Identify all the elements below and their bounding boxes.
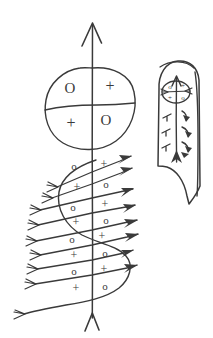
ladder-symbol-r3-right: o: [103, 214, 109, 226]
ladder-symbol-r7-right: o: [102, 280, 108, 292]
quadrant-symbol-bottom-left: +: [66, 114, 75, 131]
arrow-lines-group: [25, 155, 139, 289]
ladder-symbol-r4-right: +: [99, 229, 106, 243]
banner-inner-fold-line: [195, 72, 198, 196]
arrow-line-2: [42, 167, 133, 203]
arrow-line-6: [30, 233, 139, 260]
arrow-line-5: [26, 219, 138, 246]
ladder-symbol-r6-left: o: [71, 265, 77, 277]
mini-quadrant-symbol-bottom-left: +: [168, 94, 172, 102]
barb-left-3: [162, 144, 170, 151]
barb-right-1-head: [183, 115, 190, 122]
vertical-axis-group: [82, 23, 102, 331]
ladder-symbol-r7-left: +: [73, 281, 80, 295]
ladder-symbol-r1-left: +: [74, 180, 81, 194]
scroll-banner-group: o + + o: [158, 61, 200, 204]
barb-left-2: [162, 129, 170, 136]
arrow-line-4: [28, 204, 136, 230]
ladder-grid-group: o + + o o + + o o + + o o + + o: [69, 157, 109, 295]
quadrant-ellipse-group: O + + O: [45, 68, 135, 150]
barb-left-1: [163, 114, 171, 121]
mini-quadrant-symbol-bottom-right: o: [181, 94, 185, 102]
down-fork-icon: [85, 313, 99, 331]
wave-curve-tail-barb: [14, 310, 25, 319]
ladder-symbol-r5-left: +: [71, 248, 78, 262]
sketch-canvas: O + + O o + + o o + + o o + + o o + + o: [0, 0, 213, 338]
quadrant-symbol-bottom-right: O: [101, 112, 112, 128]
ellipse-outline: [45, 68, 135, 150]
barb-right-4-head: [181, 152, 189, 158]
quadrant-symbol-top-left: O: [65, 80, 76, 96]
ladder-symbol-r2-right: +: [102, 197, 109, 211]
quadrant-symbol-top-right: +: [105, 77, 114, 94]
barb-right-2-head: [185, 131, 192, 138]
ellipse-horizontal-divider: [45, 103, 135, 110]
barb-right-3-head: [185, 146, 192, 153]
sketch-drawing: O + + O o + + o o + + o o + + o o + + o: [0, 0, 213, 338]
